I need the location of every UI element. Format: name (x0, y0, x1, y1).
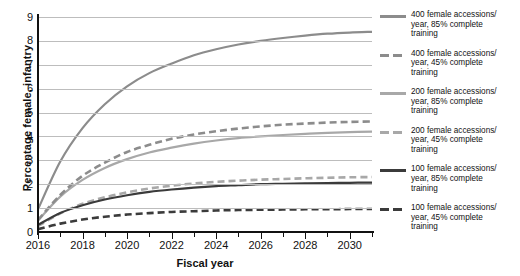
x-tick-label: 2022 (152, 240, 192, 251)
y-tick-label: 2 (5, 179, 33, 190)
legend-label-line: 400 female accessions/ (411, 10, 519, 20)
legend-entry[interactable]: 100 female accessions/year, 85% complete… (380, 164, 520, 202)
legend-label: 400 female accessions/year, 85% complete… (411, 10, 519, 39)
legend-entry[interactable]: 100 female accessions/year, 45% complete… (380, 203, 520, 241)
x-tick-label: 2026 (241, 240, 281, 251)
legend-label-line: 400 female accessions/ (411, 49, 519, 59)
gridlines (38, 17, 372, 232)
legend-swatch-dashed (380, 54, 406, 57)
legend-label-line: 100 female accessions/ (411, 164, 519, 174)
y-tick-label: 9 (5, 12, 33, 23)
legend-label: 400 female accessions/year, 45% complete… (411, 49, 519, 78)
x-tick-minor (105, 233, 106, 237)
legend-label-line: training (411, 222, 519, 232)
legend-label: 100 female accessions/year, 85% complete… (411, 164, 519, 193)
legend-label-line: 200 female accessions/ (411, 87, 519, 97)
x-tick-label: 2016 (18, 240, 58, 251)
gridline (38, 89, 372, 90)
gridline (38, 208, 372, 209)
x-tick-label: 2028 (285, 240, 325, 251)
y-tick-label: 6 (5, 83, 33, 94)
legend-label-line: year, 45% complete (411, 58, 519, 68)
legend-label-line: training (411, 68, 519, 78)
legend-entry[interactable]: 400 female accessions/year, 85% complete… (380, 10, 520, 48)
gridline (38, 113, 372, 114)
legend-label: 200 female accessions/year, 45% complete… (411, 126, 519, 155)
legend-label-line: training (411, 29, 519, 39)
x-tick-label: 2020 (107, 240, 147, 251)
legend-label-line: year, 85% complete (411, 20, 519, 30)
legend-entry[interactable]: 200 female accessions/year, 45% complete… (380, 126, 520, 164)
x-tick-minor (372, 233, 373, 237)
gridline (38, 136, 372, 137)
gridline (38, 65, 372, 66)
legend-label-line: training (411, 145, 519, 155)
legend-label-line: year, 45% complete (411, 135, 519, 145)
legend-entry[interactable]: 400 female accessions/year, 45% complete… (380, 49, 520, 87)
legend-label-line: year, 85% complete (411, 174, 519, 184)
x-tick-label: 2030 (330, 240, 370, 251)
legend-swatch-solid (380, 92, 406, 95)
legend-swatch-solid (380, 169, 406, 172)
legend-swatch-dashed (380, 131, 406, 134)
y-axis-tick-labels: 0123456789 (0, 0, 33, 276)
x-tick-minor (60, 233, 61, 237)
y-axis-line (37, 14, 39, 235)
gridline (38, 17, 372, 18)
x-tick-minor (238, 233, 239, 237)
y-tick-label: 3 (5, 155, 33, 166)
x-tick-minor (283, 233, 284, 237)
x-axis-line (37, 231, 374, 233)
y-tick-label: 5 (5, 107, 33, 118)
y-tick-label: 8 (5, 35, 33, 46)
y-tick-label: 7 (5, 59, 33, 70)
legend-label-line: training (411, 184, 519, 194)
chart-figure: Percentage female, infantry 0123456789 2… (0, 0, 520, 276)
x-tick-minor (149, 233, 150, 237)
gridline (38, 41, 372, 42)
x-axis-title: Fiscal year (38, 257, 372, 269)
legend-label-line: year, 85% complete (411, 97, 519, 107)
legend-label: 200 female accessions/year, 85% complete… (411, 87, 519, 116)
y-tick-label: 0 (5, 227, 33, 238)
legend-swatch-solid (380, 15, 406, 18)
legend-label-line: 100 female accessions/ (411, 203, 519, 213)
y-tick-label: 1 (5, 203, 33, 214)
x-tick-label: 2018 (63, 240, 103, 251)
legend-label-line: 200 female accessions/ (411, 126, 519, 136)
legend-label: 100 female accessions/year, 45% complete… (411, 203, 519, 232)
legend-label-line: training (411, 106, 519, 116)
gridline (38, 184, 372, 185)
x-tick-minor (194, 233, 195, 237)
x-tick-minor (327, 233, 328, 237)
legend-label-line: year, 45% complete (411, 213, 519, 223)
legend-entry[interactable]: 200 female accessions/year, 85% complete… (380, 87, 520, 125)
gridline (38, 160, 372, 161)
plot-area (38, 17, 372, 232)
x-tick-label: 2024 (196, 240, 236, 251)
cropped-caption-text (6, 270, 406, 276)
legend-swatch-dashed (380, 208, 406, 211)
y-tick-label: 4 (5, 131, 33, 142)
